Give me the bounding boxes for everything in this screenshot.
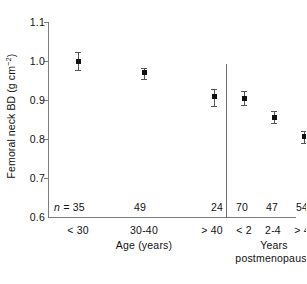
y-axis-title-main: Femoral neck BD (g cm [5, 66, 17, 178]
data-marker [212, 94, 217, 99]
n-value-4-wrap: 47 [266, 201, 278, 213]
y-axis-title-container: Femoral neck BD (g cm−2) [2, 16, 20, 216]
n-value-2-wrap: 24 [211, 201, 223, 213]
n-value-3-wrap: 70 [236, 201, 248, 213]
y-axis-title-close: ) [5, 54, 17, 58]
data-marker [242, 96, 247, 101]
x-axis-title-line2: postmenopause [235, 252, 306, 264]
y-tick-label-3: 0.9 [30, 94, 45, 106]
y-axis-title: Femoral neck BD (g cm−2) [2, 16, 20, 216]
n-prefix-italic: n = [54, 201, 70, 213]
data-marker [272, 115, 277, 120]
n-prefix-label: n = 35 [54, 201, 85, 213]
error-bar-cap-top [75, 52, 81, 53]
x-axis-title-age: Age (years) [116, 239, 172, 252]
n-value-5: 54 [296, 201, 306, 213]
error-bar-cap-bottom [241, 105, 247, 106]
error-bar-cap-bottom [141, 79, 147, 80]
n-value-4: 47 [266, 201, 278, 213]
error-bar-cap-bottom [211, 106, 217, 107]
y-tick-label-6: 0.6 [30, 211, 45, 223]
data-marker [302, 134, 307, 139]
error-bar-cap-bottom [271, 123, 277, 124]
x-tick-label-2: > 40 [201, 224, 223, 236]
x-tick-label-1: 30-40 [130, 224, 158, 236]
n-value-0: 35 [73, 201, 85, 213]
x-tick-label-0: < 30 [67, 224, 89, 236]
x-axis-title-postmenopause: Yearspostmenopause [235, 239, 306, 265]
y-axis-line [48, 22, 49, 218]
n-value-5-wrap: 54 [296, 201, 306, 213]
error-bar-cap-top [271, 111, 277, 112]
data-marker [142, 70, 147, 75]
y-tick-label-5: 0.7 [30, 172, 45, 184]
x-tick-label-4: 2-4 [265, 224, 281, 236]
error-bar-cap-top [141, 68, 147, 69]
n-value-1: 49 [134, 201, 146, 213]
error-bar-cap-top [211, 89, 217, 90]
error-bar-cap-top [241, 91, 247, 92]
y-axis-title-exponent: −2 [4, 57, 13, 66]
x-axis-title-line1: Years [260, 239, 287, 251]
chart-figure: Femoral neck BD (g cm−2) 1.1 1.0 0.9 0.8… [0, 0, 306, 284]
data-marker [76, 59, 81, 64]
n-value-1-wrap: 49 [134, 201, 146, 213]
y-tick-label-4: 0.8 [30, 133, 45, 145]
n-value-3: 70 [236, 201, 248, 213]
x-axis-line [48, 217, 296, 218]
y-tick-label-1: 1.1 [30, 16, 45, 28]
group-divider-line [226, 64, 227, 218]
x-tick-label-3: < 2 [236, 224, 252, 236]
plot-area: 1.1 1.0 0.9 0.8 0.7 0.6 [48, 22, 296, 218]
error-bar-cap-top [301, 131, 306, 132]
error-bar-cap-bottom [75, 70, 81, 71]
x-tick-label-5: > 4 [294, 224, 306, 236]
error-bar-cap-bottom [301, 143, 306, 144]
y-tick-label-2: 1.0 [30, 55, 45, 67]
n-value-2: 24 [211, 201, 223, 213]
